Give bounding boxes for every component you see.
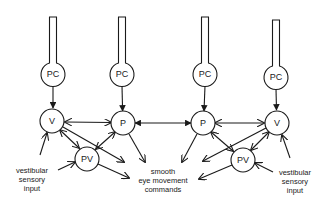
- caption-line: sensory: [19, 175, 46, 184]
- vestibular-to-v-edge: [40, 133, 47, 155]
- caption-line: commands: [145, 185, 182, 194]
- node-p-left: P: [111, 111, 135, 135]
- caption-line: sensory: [282, 177, 309, 186]
- purkinje-cell-1: PC: [41, 17, 65, 86]
- caption-line: eye movement: [138, 176, 188, 185]
- pv-output-edge: [98, 164, 129, 178]
- node-pv-left: PV: [75, 147, 99, 171]
- pc-to-p-edge: [204, 86, 205, 111]
- pc-label: PC: [47, 69, 60, 79]
- caption-line: input: [287, 186, 304, 195]
- pc-label: PC: [270, 72, 283, 82]
- caption-right-vestibular-input: vestibular sensory input: [279, 168, 312, 195]
- node-v-right: V: [265, 111, 289, 135]
- v-pv-bidirectional-edge: [60, 130, 79, 148]
- pv-output-edge: [199, 165, 232, 179]
- p-pv-bidirectional-edge: [96, 132, 115, 149]
- purkinje-cell-3: PC: [193, 17, 217, 86]
- v-label: V: [274, 118, 280, 128]
- purkinje-cell-4: PC: [264, 20, 288, 89]
- p-label: P: [120, 118, 126, 128]
- p-label: P: [200, 118, 206, 128]
- pc-label: PC: [116, 69, 129, 79]
- node-p-right: P: [191, 111, 215, 135]
- node-v-left: V: [40, 109, 64, 133]
- p-output-edge: [129, 134, 145, 162]
- pc-to-v-edge: [276, 89, 277, 110]
- diagram-canvas: PC PC PC PC V P P: [0, 0, 328, 205]
- caption-line: input: [24, 184, 41, 193]
- caption-left-vestibular-input: vestibular sensory input: [16, 166, 49, 193]
- pc-label: PC: [199, 69, 212, 79]
- caption-line: smooth: [151, 167, 176, 176]
- node-pv-right: PV: [231, 148, 255, 172]
- v-p-bidirectional-edge: [65, 122, 111, 123]
- caption-line: vestibular: [16, 166, 49, 175]
- vestibular-to-pv-edge: [58, 162, 75, 170]
- purkinje-cell-2: PC: [110, 17, 134, 86]
- caption-output-commands: smooth eye movement commands: [138, 167, 188, 194]
- v-label: V: [49, 116, 55, 126]
- caption-line: vestibular: [279, 168, 312, 177]
- vestibular-to-v-edge: [282, 135, 290, 158]
- pv-label: PV: [237, 155, 249, 165]
- p-pv-bidirectional-edge: [211, 132, 233, 151]
- vestibular-to-pv-edge: [255, 163, 273, 172]
- circuit-diagram: PC PC PC PC V P P: [0, 0, 328, 205]
- pv-label: PV: [81, 154, 93, 164]
- p-output-edge: [182, 134, 197, 162]
- pc-to-p-edge: [122, 86, 123, 111]
